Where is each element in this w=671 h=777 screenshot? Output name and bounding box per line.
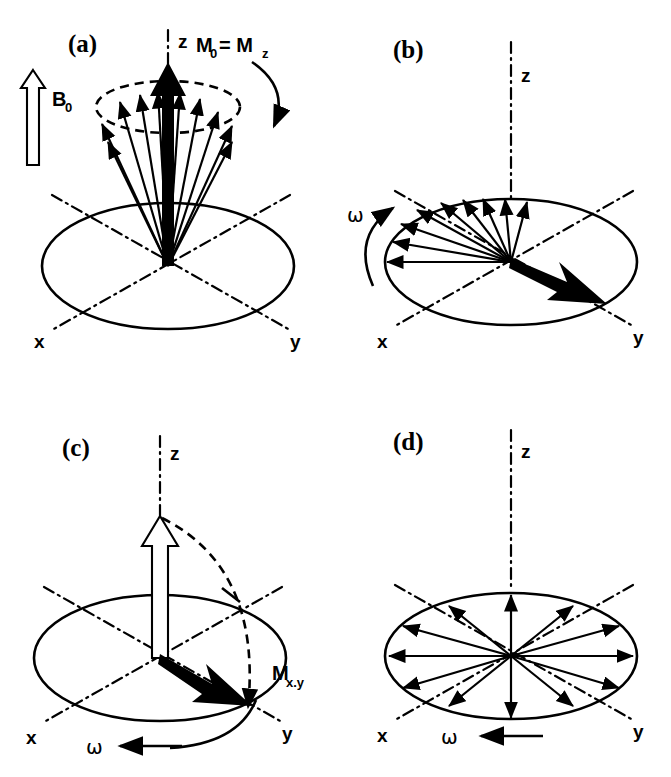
panel-a-b0-arrow: [21, 70, 45, 165]
panel-b-x-label: x: [377, 331, 388, 352]
panel-c-hollow-z-arrow: [142, 516, 178, 658]
panel-a-y-label: y: [290, 331, 301, 352]
panel-b: (b) z x y ω: [335, 0, 671, 390]
panel-a-b0-sublabel: 0: [65, 100, 72, 115]
panel-a-z-label: z: [178, 31, 188, 52]
panel-a-x-label: x: [34, 331, 45, 352]
panel-a-precession-arrow: [252, 62, 279, 126]
panel-d-omega-label: ω: [441, 725, 458, 749]
panel-b-letter: (b): [393, 36, 424, 64]
panel-c-y-label: y: [282, 723, 293, 744]
panel-c-omega-arc: [170, 700, 256, 748]
panel-b-y-label: y: [633, 327, 644, 348]
panel-c-mxy-sublabel: x.y: [286, 675, 305, 690]
panel-b-net-magnetization-vector: [509, 258, 607, 304]
panel-b-spin-vectors: [387, 199, 527, 262]
panel-a-mz-label: = M: [219, 34, 253, 56]
panel-a: (a) z B 0 M 0 = M z x y: [0, 0, 336, 390]
panel-c-arc-tick: [222, 588, 240, 602]
panel-c-letter: (c): [62, 434, 90, 462]
panel-c-mxy-vector: [158, 654, 252, 706]
panel-a-m0-vector: [150, 62, 186, 266]
panel-b-omega-label: ω: [347, 203, 364, 227]
panel-c-x-label: x: [26, 727, 37, 748]
panel-a-mz-sublabel: z: [262, 46, 269, 61]
panel-d-letter: (d): [393, 428, 424, 456]
panel-d-z-label: z: [521, 441, 531, 462]
panel-c-z-label: z: [170, 443, 180, 464]
panel-d-x-label: x: [377, 725, 388, 746]
panel-d: (d) z x y ω: [335, 388, 671, 777]
panel-d-y-label: y: [633, 721, 644, 742]
panel-a-m0-sublabel: 0: [210, 46, 217, 61]
panel-b-z-label: z: [521, 65, 531, 86]
panel-a-letter: (a): [68, 30, 97, 58]
panel-c-omega-label: ω: [86, 735, 103, 759]
figure-root: (a) z B 0 M 0 = M z x y: [0, 0, 671, 777]
panel-c: (c) z x y M x.y ω: [0, 388, 336, 777]
